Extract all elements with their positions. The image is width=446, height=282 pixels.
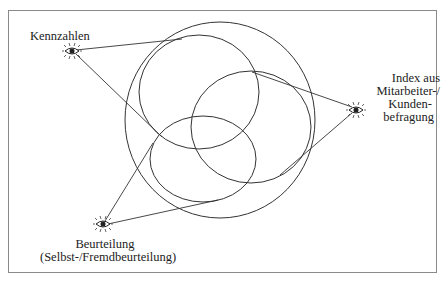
eye-icon-beurteilung [93, 216, 113, 232]
ellipse-bottom-left [150, 116, 256, 202]
label-index: Index aus Mitarbeiter-/ Kunden- befragun… [368, 72, 440, 124]
label-kennzahlen: Kennzahlen [30, 30, 90, 43]
line-index-bottom [280, 113, 352, 175]
line-beurteilung-right [108, 200, 218, 224]
label-kennzahlen-text: Kennzahlen [30, 29, 90, 43]
line-index-top [252, 72, 352, 107]
line-kennzahlen-diagonal [76, 54, 162, 137]
label-beurteilung: Beurteilung (Selbst-/Fremdbeurteilung) [40, 238, 170, 264]
outer-circle [125, 22, 315, 218]
label-index-line-4: befragung [368, 111, 440, 124]
label-beurteilung-line-2: (Selbst-/Fremdbeurteilung) [40, 251, 170, 264]
ellipse-right [191, 71, 311, 183]
